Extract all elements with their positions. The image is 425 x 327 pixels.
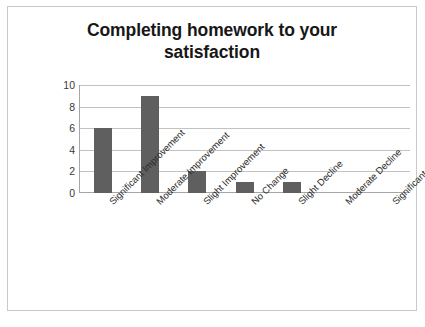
- gridline: [79, 85, 410, 86]
- y-axis-tick-labels: 0246810: [45, 85, 75, 193]
- x-axis-category-label: Significant Decline: [390, 199, 398, 207]
- gridline: [79, 107, 410, 108]
- y-axis-tick-label: 2: [45, 165, 75, 177]
- gridline: [79, 128, 410, 129]
- x-axis-category-label: Significant Improvement: [107, 199, 115, 207]
- x-axis-category-label: Moderate Improvement: [154, 199, 162, 207]
- x-axis-category-labels: Significant ImprovementModerate Improvem…: [8, 193, 418, 311]
- gridline: [79, 171, 410, 172]
- x-axis-category-label: Slight Improvement: [201, 199, 209, 207]
- y-axis-line: [79, 85, 80, 193]
- chart-title-line-1: Completing homework to your: [8, 19, 416, 41]
- y-axis-tick-label: 4: [45, 144, 75, 156]
- y-axis-tick-label: 8: [45, 101, 75, 113]
- y-axis-tick-label: 6: [45, 122, 75, 134]
- x-axis-category-label: No Change: [249, 199, 257, 207]
- x-axis-category-label: Moderate Decline: [343, 199, 351, 207]
- x-axis-category-label: Slight Decline: [296, 199, 304, 207]
- bar[interactable]: [236, 182, 254, 193]
- chart-container: Completing homework to your satisfaction…: [7, 6, 417, 311]
- y-axis-tick-label: 10: [45, 79, 75, 91]
- chart-title-line-2: satisfaction: [8, 41, 416, 63]
- gridline: [79, 150, 410, 151]
- bar[interactable]: [94, 128, 112, 193]
- chart-title: Completing homework to your satisfaction: [8, 19, 416, 64]
- bar[interactable]: [141, 96, 159, 193]
- bar[interactable]: [283, 182, 301, 193]
